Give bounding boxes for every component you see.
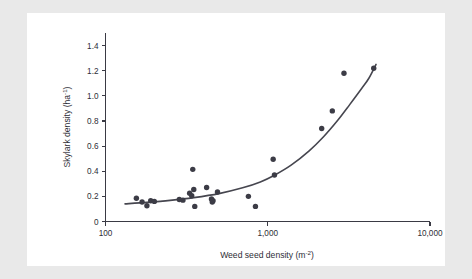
y-tick-label: 0.4 — [87, 167, 99, 176]
data-point — [152, 199, 157, 204]
data-point — [270, 157, 275, 162]
y-tick-label: 0.8 — [87, 117, 99, 126]
figure-root: 00.20.40.60.81.01.21.4 1001,00010,000 We… — [0, 0, 472, 279]
data-point — [134, 196, 139, 201]
y-tick-label: 1.0 — [87, 92, 99, 101]
data-point — [139, 199, 144, 204]
x-ticks-group: 1001,00010,000 — [99, 222, 443, 238]
x-axis-title: Weed seed density (m-2) — [220, 249, 314, 260]
axes-group — [106, 33, 431, 222]
data-point — [341, 71, 346, 76]
data-point — [204, 185, 209, 190]
data-point — [246, 194, 251, 199]
y-ticks-group: 00.20.40.60.81.01.21.4 — [87, 42, 105, 227]
data-point — [180, 197, 185, 202]
data-point — [192, 204, 197, 209]
x-tick-label: 1,000 — [258, 229, 279, 238]
x-tick-label: 10,000 — [417, 229, 442, 238]
data-point — [253, 204, 258, 209]
y-tick-label: 1.2 — [87, 67, 99, 76]
x-tick-label: 100 — [99, 229, 113, 238]
y-tick-label: 0 — [94, 218, 99, 227]
fit-curve — [125, 64, 376, 203]
data-point — [191, 187, 196, 192]
data-point — [319, 126, 324, 131]
data-point — [190, 167, 195, 172]
data-point — [215, 189, 220, 194]
y-tick-label: 0.6 — [87, 142, 99, 151]
y-tick-label: 0.2 — [87, 192, 99, 201]
data-point — [210, 198, 215, 203]
data-point — [330, 108, 335, 113]
data-point — [144, 203, 149, 208]
data-point — [189, 193, 194, 198]
data-points-group — [134, 65, 377, 209]
y-tick-label: 1.4 — [87, 42, 99, 51]
scatter-chart: 00.20.40.60.81.01.21.4 1001,00010,000 We… — [0, 0, 472, 279]
data-point — [371, 65, 376, 70]
fit-curve-group — [125, 64, 376, 203]
y-axis-title: Skylark density (ha-1) — [61, 86, 72, 167]
data-point — [272, 172, 277, 177]
